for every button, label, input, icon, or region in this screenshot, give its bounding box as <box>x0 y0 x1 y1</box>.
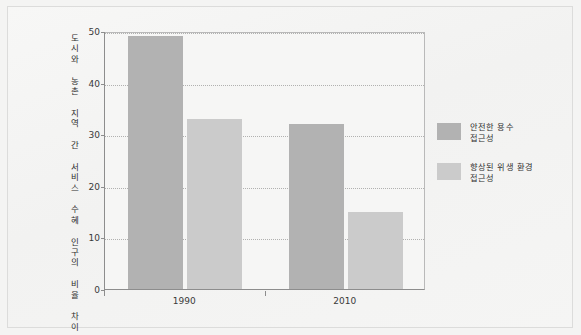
y-tick-mark-20 <box>101 187 105 188</box>
legend-item-1[interactable]: 향상된 위생 환경 접근성 <box>437 162 572 185</box>
chart-figure: 도시와 농촌 지역 간 서비스 수혜 인구의 비율 차이 01020304050… <box>0 0 581 335</box>
y-tick-label-40: 40 <box>89 79 100 88</box>
bar-1990-series-0 <box>128 36 183 289</box>
bar-2010-series-1 <box>348 212 403 289</box>
y-tick-label-20: 20 <box>89 182 100 191</box>
legend-swatch-icon-0 <box>437 123 461 140</box>
bar-2010-series-0 <box>289 124 344 289</box>
legend-label-1: 향상된 위생 환경 접근성 <box>470 162 533 185</box>
legend-label-1-line1: 향상된 위생 환경 <box>470 162 533 172</box>
legend-label-1-line2: 접근성 <box>470 173 533 184</box>
x-tick-mark-0 <box>104 291 105 296</box>
y-tick-mark-10 <box>101 238 105 239</box>
legend-label-0: 안전한 용수 접근성 <box>470 122 514 145</box>
y-tick-mark-50 <box>101 32 105 33</box>
y-axis-ticks: 01020304050 <box>80 0 100 335</box>
y-tick-label-10: 10 <box>89 234 100 243</box>
legend-label-0-line1: 안전한 용수 <box>470 122 514 132</box>
legend-item-0[interactable]: 안전한 용수 접근성 <box>437 122 572 145</box>
chart-legend: 안전한 용수 접근성 향상된 위생 환경 접근성 <box>437 122 572 201</box>
gridline-50 <box>105 33 424 34</box>
y-tick-label-0: 0 <box>94 286 100 295</box>
legend-swatch-icon-1 <box>437 163 461 180</box>
y-tick-mark-40 <box>101 84 105 85</box>
bar-1990-series-1 <box>187 119 242 289</box>
x-tick-mark-1 <box>265 291 266 296</box>
x-tick-label-2010: 2010 <box>333 296 356 306</box>
y-tick-mark-30 <box>101 135 105 136</box>
legend-label-0-line2: 접근성 <box>470 133 514 144</box>
y-axis-title: 도시와 농촌 지역 간 서비스 수혜 인구의 비율 차이 <box>62 34 78 284</box>
y-tick-label-50: 50 <box>89 28 100 37</box>
y-tick-label-30: 30 <box>89 131 100 140</box>
x-tick-label-1990: 1990 <box>173 296 196 306</box>
plot-area <box>104 32 425 290</box>
